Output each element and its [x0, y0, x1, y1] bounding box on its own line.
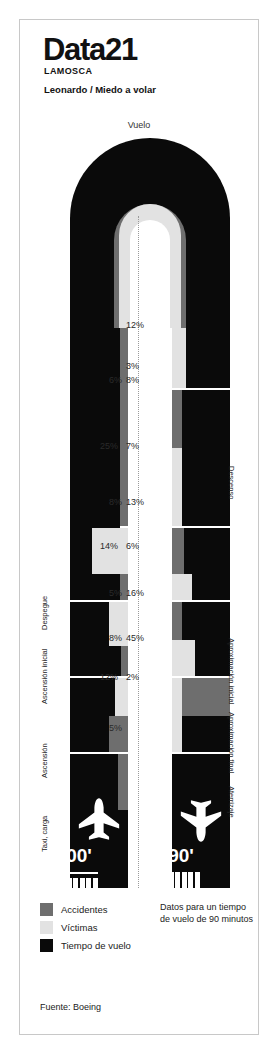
legend-label-1: Víctimas — [61, 922, 97, 933]
right-accidentes-6 — [172, 602, 182, 640]
left-runway-line — [60, 872, 98, 874]
pct-label-left-7: 5% — [96, 723, 122, 733]
phase-label-left-3: Taxi, carga — [40, 816, 49, 852]
right-descenso-black-1 — [186, 328, 230, 388]
right-descenso-black-3 — [182, 448, 230, 526]
right-accidentes-45 — [182, 678, 230, 716]
pct-label-right-4: 13% — [126, 497, 154, 507]
legend-swatch-2 — [40, 939, 53, 952]
right-victimas-2 — [172, 678, 182, 752]
page-subtitle: Leonardo / Miedo a volar — [44, 84, 156, 95]
airplane-takeoff-icon — [78, 798, 120, 842]
arch-inner-white — [130, 220, 170, 328]
right-accidentes-7 — [172, 528, 184, 574]
flight-arch — [70, 138, 230, 328]
right-time-label: 90' — [152, 845, 210, 867]
left-tiempo-vuelo — [70, 328, 120, 550]
right-victimas-8 — [172, 448, 182, 526]
pct-label-right-3: 7% — [126, 441, 154, 451]
pct-label-right-5: 6% — [126, 541, 154, 551]
pct-label-right-6: 16% — [126, 588, 154, 598]
legend-item-1: Víctimas — [40, 921, 131, 934]
chart-stage: Vuelo — [20, 120, 258, 895]
pct-label-left-2: 8% — [96, 497, 122, 507]
right-accidentes-3 — [172, 390, 182, 448]
pct-label-left-4: 5% — [96, 588, 122, 598]
legend-swatch-0 — [40, 903, 53, 916]
right-victimas-16 — [172, 640, 195, 676]
pct-label-right-0: 12% — [126, 320, 154, 330]
left-victimas-25 — [92, 528, 128, 574]
left-accidentes-12 — [109, 716, 128, 752]
legend-label-0: Accidentes — [61, 904, 107, 915]
pct-label-right-1: 3% — [126, 361, 154, 371]
left-time-label: 00' — [50, 845, 108, 867]
chart-top-label: Vuelo — [20, 120, 258, 130]
right-victimas-12 — [172, 328, 186, 388]
pct-label-left-1: 25% — [92, 441, 118, 451]
pct-label-left-0: 6% — [96, 375, 122, 385]
legend-swatch-1 — [40, 921, 53, 934]
airplane-landing-icon — [180, 798, 222, 842]
brand-subtitle: LAMOSCA — [44, 66, 92, 76]
left-victimas-8 — [115, 678, 128, 716]
phase-label-left-1: Ascensión inicial — [40, 649, 49, 704]
phase-label-right-2: Aproximación final — [227, 712, 236, 773]
pct-label-right-2: 8% — [126, 375, 154, 385]
phase-label-left-0: Despegue — [40, 596, 49, 630]
legend-note: Datos para un tiempo de vuelo de 90 minu… — [160, 901, 255, 925]
center-dotted-line — [138, 216, 139, 888]
source-label: Fuente: Boeing — [40, 1002, 101, 1012]
right-runway-stripes — [162, 872, 200, 893]
phase-label-right-0: Descenso — [227, 466, 236, 499]
legend: AccidentesVíctimasTiempo de vuelo — [40, 903, 131, 957]
infographic-page: Data21 LAMOSCA Leonardo / Miedo a volar … — [0, 0, 279, 1059]
legend-item-0: Accidentes — [40, 903, 131, 916]
right-runway-line — [162, 896, 200, 898]
pct-label-left-3: 14% — [92, 541, 118, 551]
left-runway-stripes — [60, 878, 98, 899]
pct-label-right-7: 45% — [126, 633, 154, 643]
legend-label-2: Tiempo de vuelo — [61, 940, 131, 951]
pct-label-left-5: 8% — [96, 633, 122, 643]
right-descenso-black-2 — [182, 390, 230, 448]
phase-label-left-2: Ascensión — [40, 743, 49, 778]
right-victimas-13 — [172, 574, 192, 600]
pct-label-left-6: 12% — [92, 672, 118, 682]
pct-label-right-8: 2% — [126, 672, 154, 682]
phase-label-right-3: Aterrizaje — [227, 786, 236, 818]
brand-title: Data21 — [43, 34, 137, 65]
legend-item-2: Tiempo de vuelo — [40, 939, 131, 952]
phase-label-right-1: Aproximación inicial — [227, 638, 236, 704]
